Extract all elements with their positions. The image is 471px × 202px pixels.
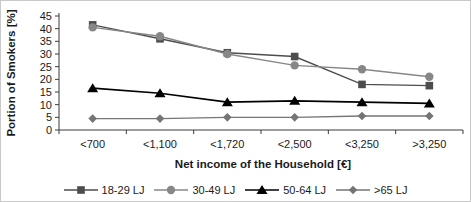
x-category-label: <2,500 — [278, 138, 312, 150]
data-point-marker — [425, 112, 434, 121]
legend-marker — [77, 186, 85, 194]
data-point-marker — [88, 23, 96, 31]
y-axis-title: Portion of Smokers [%] — [5, 9, 17, 136]
legend-item: 18-29 LJ — [64, 184, 145, 196]
legend-marker-icon — [336, 184, 370, 196]
legend-item: >65 LJ — [336, 184, 407, 196]
x-category-label: <1,720 — [210, 138, 244, 150]
legend-marker — [349, 186, 358, 195]
data-point-marker — [88, 114, 97, 123]
x-category-label: >3,250 — [412, 138, 446, 150]
x-category-label: <700 — [80, 138, 105, 150]
y-tick-label: 45 — [40, 10, 52, 22]
legend-label: 30-49 LJ — [192, 184, 235, 196]
y-tick-label: 5 — [46, 111, 52, 123]
plot-area: 051015202530354045<700<1,100<1,720<2,500… — [40, 10, 463, 150]
data-point-marker — [156, 32, 164, 40]
y-tick-label: 10 — [40, 99, 52, 111]
y-tick-label: 20 — [40, 73, 52, 85]
smokers-line-chart: Portion of Smokers [%] Net income of the… — [1, 1, 471, 177]
data-point-marker — [290, 113, 299, 122]
legend-label: 18-29 LJ — [102, 184, 145, 196]
series-diamond — [88, 112, 433, 123]
legend-label: 50-64 LJ — [283, 184, 326, 196]
x-category-label: <1,100 — [143, 138, 177, 150]
y-tick-label: 35 — [40, 35, 52, 47]
x-axis-title: Net income of the Household [€] — [175, 158, 352, 170]
series-square — [89, 21, 433, 89]
data-point-marker — [223, 50, 231, 58]
legend-item: 30-49 LJ — [154, 184, 235, 196]
y-tick-label: 30 — [40, 48, 52, 60]
chart-figure: Portion of Smokers [%] Net income of the… — [0, 0, 471, 202]
y-tick-label: 15 — [40, 86, 52, 98]
y-tick-label: 0 — [46, 124, 52, 136]
series-line — [93, 88, 430, 103]
data-point-marker — [291, 53, 299, 61]
chart-legend: 18-29 LJ30-49 LJ50-64 LJ>65 LJ — [1, 179, 470, 201]
data-point-marker — [358, 112, 367, 121]
legend-label: >65 LJ — [374, 184, 407, 196]
data-point-marker — [156, 114, 165, 123]
legend-item: 50-64 LJ — [245, 184, 326, 196]
data-point-marker — [425, 73, 433, 81]
legend-marker-icon — [245, 184, 279, 196]
y-tick-label: 25 — [40, 61, 52, 73]
legend-marker-icon — [154, 184, 188, 196]
legend-marker — [167, 186, 175, 194]
data-point-marker — [290, 61, 298, 69]
series-circle — [88, 23, 433, 81]
data-point-marker — [223, 113, 232, 122]
series-triangle — [87, 83, 435, 107]
data-point-marker — [358, 81, 366, 89]
x-category-label: <3,250 — [345, 138, 379, 150]
series-line — [93, 116, 430, 119]
data-point-marker — [358, 65, 366, 73]
data-point-marker — [426, 82, 434, 90]
y-tick-label: 40 — [40, 23, 52, 35]
legend-marker-icon — [64, 184, 98, 196]
